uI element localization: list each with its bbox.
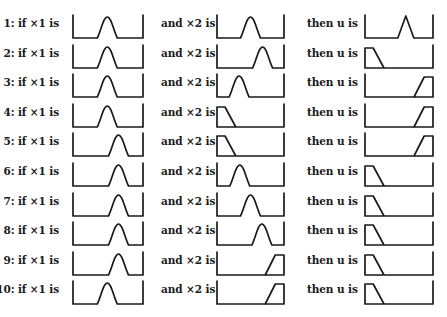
rule-u-label: then u is xyxy=(307,195,358,207)
rule-u-label: then u is xyxy=(307,47,358,59)
rule-x1-label: 3: if ×1 is xyxy=(3,76,59,88)
rule-u-label: then u is xyxy=(307,283,358,295)
rule-x2-label: and ×2 is xyxy=(161,195,215,207)
u-membership-function-icon xyxy=(365,133,433,156)
x2-membership-function-icon xyxy=(217,163,284,186)
x2-membership-function-icon xyxy=(217,15,284,38)
rule-u-label: then u is xyxy=(307,224,358,236)
u-membership-function-icon xyxy=(365,193,433,216)
rule-row-3: 3: if ×1 is and ×2 is then u is xyxy=(0,68,447,98)
x1-membership-function-icon xyxy=(73,281,143,304)
rule-x1-label: 2: if ×1 is xyxy=(3,47,59,59)
rule-x1-label: 4: if ×1 is xyxy=(3,106,59,118)
u-membership-function-icon xyxy=(365,15,433,38)
rule-row-9: 9: if ×1 is and ×2 is then u is xyxy=(0,246,447,276)
x2-membership-function-icon xyxy=(217,193,284,216)
x1-membership-function-icon xyxy=(73,193,143,216)
u-membership-function-icon xyxy=(365,45,433,68)
x2-membership-function-icon xyxy=(217,74,284,97)
rule-x1-label: 7: if ×1 is xyxy=(3,195,59,207)
rule-u-label: then u is xyxy=(307,106,358,118)
rule-x2-label: and ×2 is xyxy=(161,106,215,118)
rule-row-6: 6: if ×1 is and ×2 is then u is xyxy=(0,157,447,187)
x1-membership-function-icon xyxy=(73,252,143,275)
rule-u-label: then u is xyxy=(307,165,358,177)
rule-x2-label: and ×2 is xyxy=(161,254,215,266)
x1-membership-function-icon xyxy=(73,45,143,68)
rule-row-5: 5: if ×1 is and ×2 is then u is xyxy=(0,127,447,157)
rule-row-7: 7: if ×1 is and ×2 is then u is xyxy=(0,187,447,217)
x2-membership-function-icon xyxy=(217,104,284,127)
x2-membership-function-icon xyxy=(217,45,284,68)
rule-x1-label: 8: if ×1 is xyxy=(3,224,59,236)
rule-x1-label: 6: if ×1 is xyxy=(3,165,59,177)
rule-row-2: 2: if ×1 is and ×2 is then u is xyxy=(0,39,447,69)
rule-u-label: then u is xyxy=(307,254,358,266)
fuzzy-rule-diagram: 1: if ×1 is and ×2 is then u is 2: if ×1… xyxy=(0,0,447,317)
x2-membership-function-icon xyxy=(217,133,284,156)
u-membership-function-icon xyxy=(365,74,433,97)
x2-membership-function-icon xyxy=(217,281,284,304)
rule-x2-label: and ×2 is xyxy=(161,165,215,177)
rule-x1-label: 9: if ×1 is xyxy=(3,254,59,266)
u-membership-function-icon xyxy=(365,252,433,275)
x1-membership-function-icon xyxy=(73,74,143,97)
rule-x1-label: 1: if ×1 is xyxy=(3,17,59,29)
rule-x2-label: and ×2 is xyxy=(161,47,215,59)
rule-x2-label: and ×2 is xyxy=(161,76,215,88)
rule-row-4: 4: if ×1 is and ×2 is then u is xyxy=(0,98,447,128)
rule-u-label: then u is xyxy=(307,17,358,29)
x1-membership-function-icon xyxy=(73,15,143,38)
rule-row-10: 10: if ×1 is and ×2 is then u is xyxy=(0,275,447,305)
x1-membership-function-icon xyxy=(73,133,143,156)
x1-membership-function-icon xyxy=(73,163,143,186)
rule-row-8: 8: if ×1 is and ×2 is then u is xyxy=(0,216,447,246)
u-membership-function-icon xyxy=(365,222,433,245)
rule-x2-label: and ×2 is xyxy=(161,17,215,29)
x1-membership-function-icon xyxy=(73,104,143,127)
rule-x1-label: 5: if ×1 is xyxy=(3,135,59,147)
rule-x2-label: and ×2 is xyxy=(161,135,215,147)
rule-row-1: 1: if ×1 is and ×2 is then u is xyxy=(0,9,447,39)
u-membership-function-icon xyxy=(365,104,433,127)
rule-x1-label: 10: if ×1 is xyxy=(0,283,59,295)
x1-membership-function-icon xyxy=(73,222,143,245)
u-membership-function-icon xyxy=(365,163,433,186)
rule-x2-label: and ×2 is xyxy=(161,283,215,295)
rule-u-label: then u is xyxy=(307,76,358,88)
rule-u-label: then u is xyxy=(307,135,358,147)
x2-membership-function-icon xyxy=(217,252,284,275)
rule-x2-label: and ×2 is xyxy=(161,224,215,236)
u-membership-function-icon xyxy=(365,281,433,304)
x2-membership-function-icon xyxy=(217,222,284,245)
